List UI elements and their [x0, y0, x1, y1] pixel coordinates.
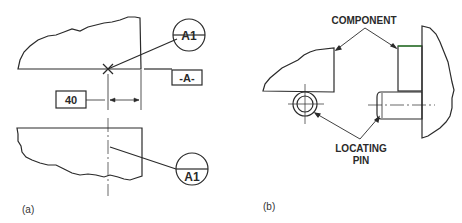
datum-target-bottom-label: A1	[184, 170, 200, 184]
caption-a: (a)	[22, 204, 34, 215]
leader-line-top	[108, 39, 177, 69]
label-locating: LOCATING	[335, 143, 387, 154]
locating-pin-end	[288, 84, 324, 124]
technical-drawing: A1 A1 -A- 40 (a) COMPONENT LOCATING PIN …	[0, 0, 462, 223]
locating-pin-side	[377, 92, 422, 119]
part-a-bottom	[17, 128, 142, 180]
datum-target-top-label: A1	[181, 29, 197, 43]
mounting-plate	[422, 26, 454, 138]
dimension-value: 40	[65, 94, 77, 106]
caption-b: (b)	[263, 201, 275, 212]
label-component: COMPONENT	[332, 15, 397, 26]
label-pin: PIN	[353, 155, 370, 166]
part-a-top	[18, 17, 141, 69]
component-left	[263, 48, 334, 92]
component-right-block	[398, 46, 422, 91]
leader-line-bottom	[110, 147, 176, 169]
datum-feature-label: -A-	[179, 72, 195, 84]
